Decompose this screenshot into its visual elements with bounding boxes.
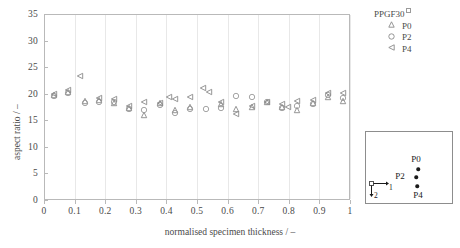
data-point-p0 <box>172 106 179 113</box>
data-point-p2 <box>172 110 179 117</box>
data-point-p0 <box>340 98 347 105</box>
data-point-p4 <box>233 111 240 118</box>
data-point-p4 <box>199 84 206 91</box>
inset-position-dot <box>414 175 418 179</box>
x-tick-mark <box>258 200 259 204</box>
x-tick-mark <box>319 200 320 204</box>
data-point-p4 <box>77 72 84 79</box>
square-glyph-icon <box>406 8 411 13</box>
legend-entry-p4: P4 <box>374 44 412 54</box>
data-point-p2 <box>233 93 240 100</box>
x-tick-label: 0.9 <box>313 206 325 216</box>
y-tick-label: 0 <box>16 195 38 205</box>
legend-entry-p2: P2 <box>374 32 412 42</box>
x-tick-mark <box>136 200 137 204</box>
data-point-p2 <box>126 106 133 113</box>
x-tick-mark <box>166 200 167 204</box>
data-point-p4 <box>263 98 270 105</box>
x-tick-mark <box>44 200 45 204</box>
y-tick-mark <box>44 173 48 174</box>
inset-position-dot <box>416 167 420 171</box>
x-tick-mark <box>228 200 229 204</box>
data-point-p0 <box>141 112 148 119</box>
data-point-p4 <box>325 89 332 96</box>
inset-position-dot <box>415 184 419 188</box>
data-point-p4 <box>248 102 255 109</box>
y-tick-mark <box>44 41 48 42</box>
data-point-p0 <box>248 104 255 111</box>
data-point-p4 <box>64 86 71 93</box>
y-tick-label: 10 <box>16 142 38 152</box>
data-point-p4 <box>110 95 117 102</box>
plot-area <box>44 14 350 200</box>
data-point-p0 <box>309 99 316 106</box>
data-point-p2 <box>51 92 58 99</box>
x-axis-title: normalised specimen thickness / – <box>0 227 460 237</box>
data-point-p0 <box>294 106 301 113</box>
data-point-p0 <box>279 104 286 111</box>
x-tick-label: 0.1 <box>68 206 80 216</box>
data-point-p2 <box>156 101 163 108</box>
y-tick-label: 15 <box>16 115 38 125</box>
gridline-vertical <box>105 15 106 199</box>
inset-label-p2: P2 <box>395 171 405 181</box>
inset-label-p0: P0 <box>411 154 421 164</box>
gridline-vertical <box>228 15 229 199</box>
gridline-vertical <box>289 15 290 199</box>
data-point-p4 <box>141 99 148 106</box>
legend-entry-label: P2 <box>402 32 412 42</box>
y-tick-label: 30 <box>16 36 38 46</box>
data-point-p2 <box>217 105 224 112</box>
gridline-vertical <box>350 15 351 199</box>
x-tick-label: 0.4 <box>160 206 172 216</box>
data-point-p2 <box>81 99 88 106</box>
data-point-p2 <box>141 106 148 113</box>
gridline-vertical <box>166 15 167 199</box>
data-point-p4 <box>217 99 224 106</box>
data-point-p0 <box>110 100 117 107</box>
x-tick-mark <box>289 200 290 204</box>
x-tick-mark <box>75 200 76 204</box>
data-point-p0 <box>126 105 133 112</box>
data-point-p4 <box>95 95 102 102</box>
data-point-p4 <box>172 95 179 102</box>
data-point-p2 <box>279 105 286 112</box>
data-point-p0 <box>263 99 270 106</box>
circle-icon <box>388 33 397 42</box>
inset-label-p4: P4 <box>413 190 423 200</box>
data-point-p0 <box>217 101 224 108</box>
x-tick-mark <box>350 200 351 204</box>
data-point-p2 <box>294 102 301 109</box>
data-point-p2 <box>325 92 332 99</box>
legend-title: PPGF30 <box>374 8 412 19</box>
legend-entry-label: P4 <box>402 44 412 54</box>
specimen-position-inset: P0P2P4 1 2 <box>365 131 453 204</box>
data-point-p0 <box>64 89 71 96</box>
data-point-p4 <box>126 103 133 110</box>
data-point-p4 <box>340 90 347 97</box>
x-tick-label: 0.3 <box>130 206 142 216</box>
data-point-p2 <box>248 94 255 101</box>
data-point-p2 <box>187 105 194 112</box>
data-point-p2 <box>110 99 117 106</box>
data-point-p4 <box>187 94 194 101</box>
legend-entry-p0: P0 <box>374 21 412 31</box>
x-tick-label: 0.7 <box>252 206 264 216</box>
y-tick-mark <box>44 120 48 121</box>
x-tick-label: 0 <box>42 206 47 216</box>
data-point-p0 <box>156 100 163 107</box>
data-point-p0 <box>51 92 58 99</box>
data-point-p0 <box>187 104 194 111</box>
data-point-p0 <box>81 97 88 104</box>
data-point-p2 <box>340 95 347 102</box>
legend-entry-label: P0 <box>402 21 412 31</box>
x-tick-label: 1 <box>348 206 353 216</box>
data-point-p4 <box>205 88 212 95</box>
data-point-p4 <box>309 97 316 104</box>
data-point-p4 <box>294 98 301 105</box>
y-tick-mark <box>44 94 48 95</box>
data-point-p4 <box>156 100 163 107</box>
legend: PPGF30 P0P2P4 <box>374 8 412 54</box>
gridline-vertical <box>258 15 259 199</box>
axes-indicator-label-horizontal: 1 <box>389 183 393 192</box>
